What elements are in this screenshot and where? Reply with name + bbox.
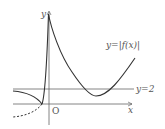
x-axis-label: x [128, 105, 133, 115]
origin-label: O [52, 106, 59, 116]
curve-left-branch [13, 91, 42, 104]
asymptote-label: y=2 [135, 84, 155, 94]
y-axis-label: y [40, 9, 47, 19]
curve-label: y=|f(x)| [105, 40, 140, 51]
curve-abs-f [42, 14, 135, 104]
curve-dashed-branch [13, 104, 42, 117]
graph-diagram: y x O y=|f(x)| y=2 [0, 0, 165, 129]
